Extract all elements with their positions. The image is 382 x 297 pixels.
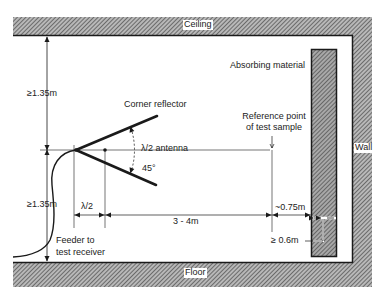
absorbing-material-block <box>305 50 337 257</box>
feeder-label-line2: test receiver <box>56 248 105 257</box>
reference-point-label-line1: Reference point <box>240 112 308 121</box>
reference-point-label-line2: of test sample <box>240 123 308 132</box>
corner-reflector-label: Corner reflector <box>124 100 187 109</box>
sample-absorber-distance-label: ~0.75m <box>275 203 305 212</box>
ceiling-clearance-label: ≥1.35m <box>27 89 57 98</box>
antenna-spacing-label: λ/2 <box>81 202 93 211</box>
feeder-label-line1: Feeder to <box>56 236 95 245</box>
test-distance-label: 3 - 4m <box>173 217 199 226</box>
absorber-thickness-label: ≥ 0.6m <box>271 236 298 245</box>
antenna-label: λ/2 antenna <box>141 144 188 153</box>
reference-point-marker <box>270 136 274 148</box>
floor-clearance-label: ≥1.35m <box>27 200 57 209</box>
absorbing-material-label: Absorbing material <box>230 61 305 70</box>
ceiling-label: Ceiling <box>183 20 213 30</box>
test-setup-diagram: Ceiling Floor Wall Absorbing material Co… <box>0 0 382 297</box>
wall-label: Wall <box>354 143 373 153</box>
floor-label: Floor <box>184 268 207 278</box>
height-dimension <box>45 37 50 262</box>
angle-label: 45° <box>142 164 156 173</box>
